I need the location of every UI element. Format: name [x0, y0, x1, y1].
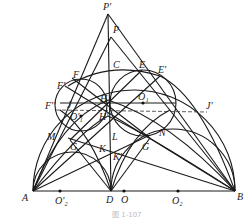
label-j-prime: J'	[206, 100, 213, 111]
label-o1: O₁	[138, 91, 149, 102]
label-l: L	[111, 131, 118, 142]
label-p: P	[112, 24, 119, 35]
label-e: E	[138, 59, 145, 70]
label-k: K	[98, 143, 107, 154]
figure-caption: 图 1-107	[112, 211, 142, 219]
segment-b-m	[68, 138, 235, 191]
segment-f-g	[72, 78, 150, 138]
label-m: M	[46, 131, 56, 142]
point-o2-prime	[58, 189, 61, 192]
label-h: H	[99, 93, 108, 104]
label-h-prime: H'	[98, 111, 109, 122]
label-o1-prime: O'₁	[70, 111, 83, 122]
label-g-left: G	[70, 141, 77, 152]
label-d: D	[105, 194, 114, 205]
label-o2: O₂	[172, 195, 183, 206]
label-k-prime: K'	[112, 151, 123, 162]
label-o: O	[121, 194, 128, 205]
segment-bp	[111, 37, 235, 191]
label-a: A	[21, 192, 29, 203]
label-j: J	[67, 99, 72, 110]
point-o2	[176, 189, 179, 192]
geometry-figure: P' P C E E' F F' F'' J J' H H' O₁ O'₁ M …	[0, 0, 252, 221]
semicircle-db	[111, 129, 235, 191]
label-g-right: G	[142, 141, 149, 152]
label-o2-prime: O'₂	[55, 195, 68, 206]
point-o	[122, 189, 125, 192]
label-p-prime: P'	[102, 1, 112, 12]
semicircle-ab	[33, 90, 235, 191]
label-c: C	[113, 59, 120, 70]
label-e-prime: E'	[157, 64, 167, 75]
label-n: N	[158, 127, 167, 138]
label-f: F	[72, 69, 80, 80]
label-f-double: F''	[44, 100, 56, 111]
label-b: B	[237, 191, 243, 202]
label-f-prime: F'	[56, 80, 66, 91]
